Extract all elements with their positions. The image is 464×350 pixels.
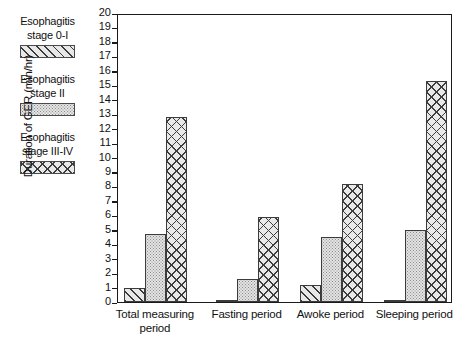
legend-label-line1: Esophagitis	[0, 72, 95, 86]
y-axis-tick-label: 15	[99, 79, 111, 90]
x-axis-label-line1: Sleeping period	[364, 307, 464, 321]
y-axis-tick-label: 8	[105, 180, 111, 191]
legend-item-stage-III-IV: Esophagitis stage III-IV	[0, 130, 95, 174]
y-axis-tick-label: 16	[99, 65, 111, 76]
legend-label-line2: stage 0-I	[0, 28, 95, 42]
bars-layer	[118, 15, 451, 302]
y-axis-tick-label: 2	[105, 267, 111, 278]
bar	[216, 300, 237, 302]
bar	[145, 234, 166, 302]
bar-group	[124, 15, 187, 302]
bar	[384, 300, 405, 302]
x-axis: Total measuringperiodFasting periodAwoke…	[117, 307, 452, 347]
y-axis-tick-label: 12	[99, 123, 111, 134]
x-axis-label-line2: period	[105, 321, 205, 335]
legend-label-line2: stage II	[0, 86, 95, 100]
y-axis-tick-label: 13	[99, 108, 111, 119]
chart-legend: Esophagitis stage 0-I Esophagitis stage …	[0, 14, 95, 188]
legend-label-line1: Esophagitis	[0, 14, 95, 28]
plot-area	[117, 14, 452, 303]
x-axis-label: Total measuringperiod	[105, 307, 205, 335]
bar	[321, 237, 342, 302]
bar-group	[300, 15, 363, 302]
y-axis: 20191817161514131211109876543210	[93, 14, 117, 303]
y-axis-tick-label: 3	[105, 253, 111, 264]
bar	[300, 285, 321, 302]
bar	[426, 81, 447, 302]
legend-item-stage-0-I: Esophagitis stage 0-I	[0, 14, 95, 58]
bar	[258, 217, 279, 302]
legend-label-line1: Esophagitis	[0, 130, 95, 144]
bar	[166, 117, 187, 302]
x-axis-label-line1: Total measuring	[105, 307, 205, 321]
y-axis-tick-label: 18	[99, 36, 111, 47]
legend-item-stage-II: Esophagitis stage II	[0, 72, 95, 116]
y-axis-tick-label: 11	[100, 137, 111, 148]
y-axis-tick-label: 5	[105, 224, 111, 235]
y-axis-tick-label: 4	[105, 238, 111, 249]
y-axis-tick-label: 19	[99, 21, 111, 32]
bar	[124, 288, 145, 302]
y-axis-title: Duration of GER (min/hr)	[22, 31, 34, 201]
y-axis-tick-label: 0	[105, 296, 111, 307]
bar	[342, 184, 363, 302]
legend-label-line2: stage III-IV	[0, 144, 95, 158]
bar-group	[216, 15, 279, 302]
y-axis-tick-label: 17	[99, 50, 111, 61]
bar-group	[384, 15, 447, 302]
y-axis-tick-label: 10	[99, 152, 111, 163]
y-axis-tick-label: 20	[99, 7, 111, 18]
x-axis-label: Sleeping period	[364, 307, 464, 321]
y-axis-tick-label: 1	[105, 282, 111, 293]
bar	[237, 279, 258, 302]
y-axis-tick-label: 14	[99, 94, 111, 105]
y-axis-tick-label: 6	[105, 209, 111, 220]
y-axis-tick-label: 7	[105, 195, 111, 206]
y-axis-tick-label: 9	[105, 166, 111, 177]
bar	[405, 230, 426, 302]
